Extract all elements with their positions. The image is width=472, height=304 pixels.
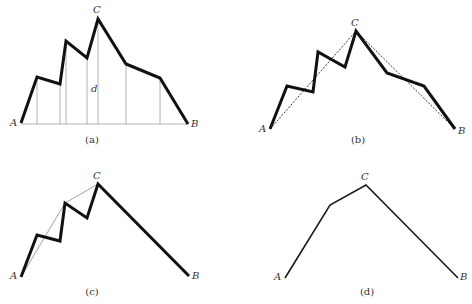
panel-b: A B C (b) — [258, 17, 465, 145]
point-label-c: C — [351, 17, 359, 28]
panel-d: A B C (d) — [273, 171, 467, 297]
caption-c: (c) — [85, 286, 99, 297]
point-label-c: C — [93, 170, 101, 181]
point-label-b: B — [190, 118, 198, 129]
panel-a: A B C d (a) — [9, 4, 198, 145]
point-label-b: B — [457, 125, 465, 136]
caption-a: (a) — [85, 134, 99, 145]
point-label-b: B — [191, 270, 199, 281]
original-curve — [21, 19, 188, 124]
final-simplified-curve — [285, 185, 458, 278]
simplified-curve — [21, 184, 189, 277]
point-label-a: A — [258, 123, 266, 134]
caption-b: (b) — [351, 134, 365, 145]
figure-canvas: A B C d (a) A B C (b) A B C (c) A B C (d… — [0, 0, 472, 304]
point-label-c: C — [361, 171, 369, 182]
thin-approximation-lines — [21, 184, 98, 277]
caption-d: (d) — [360, 286, 374, 297]
panel-c: A B C (c) — [9, 170, 199, 297]
original-curve — [270, 31, 455, 129]
point-label-a: A — [9, 270, 17, 281]
dashed-approximation-lines — [270, 31, 455, 129]
distance-label-d: d — [91, 83, 97, 94]
point-label-a: A — [273, 271, 281, 282]
point-label-a: A — [9, 117, 17, 128]
point-label-c: C — [93, 4, 101, 15]
point-label-b: B — [459, 271, 467, 282]
